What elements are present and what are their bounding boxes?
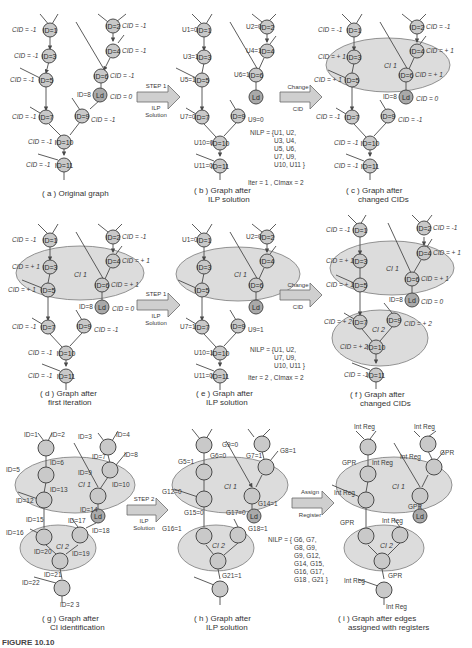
edge-id-label: ID=7	[92, 453, 106, 460]
panel-caption: ( d ) Graph after	[40, 389, 97, 398]
nilp-line: G18 , G21 }	[294, 576, 329, 584]
node-label: ID=1	[353, 227, 368, 234]
node-label: ID=9	[381, 113, 396, 120]
panel-d-first-iteration: CI 1 ID=1 ID=2 ID=3 ID=4 ID=5 ID=6 Ld ID…	[8, 224, 150, 407]
node-label: ID=9	[77, 323, 92, 330]
arrow-label: Change	[287, 282, 309, 288]
node-label: ID=10	[55, 139, 74, 146]
u-label: U10=0	[194, 139, 214, 146]
panel-caption: ILP solution	[206, 398, 248, 407]
node-label: ID=5	[345, 77, 360, 84]
node-label: ID=10	[57, 350, 76, 357]
register-label: Int Reg	[334, 489, 355, 497]
nilp-line: U7, U9,	[274, 354, 296, 361]
node-label: ID=7	[345, 114, 360, 121]
node-label: ID=4	[106, 258, 121, 265]
cid-label: CID = -1	[326, 226, 351, 233]
u-label: U4=1	[246, 47, 262, 54]
edge-id-label: ID=16	[6, 529, 24, 536]
node-label: ID=2	[417, 225, 432, 232]
edge-id-label: ID=14	[80, 506, 98, 513]
node-label: ID=6	[95, 282, 110, 289]
panel-caption: ( b ) Graph after	[194, 186, 251, 195]
g-label: G7=1	[246, 452, 262, 459]
edge-id-label: ID=15	[26, 516, 44, 523]
arrow-step1-ilp: STEP 1 ILP Solution	[137, 83, 180, 118]
cid-label: CID = + 1	[318, 53, 346, 60]
cid-label: CID = + 1	[8, 286, 36, 293]
node-label: ID=4	[417, 250, 432, 257]
panel-g-ci-identification: CI 1 CI 2 Ld ID=1 ID=2	[6, 431, 138, 632]
u-label: U1=0	[182, 236, 198, 243]
register-label: Int Reg	[382, 517, 403, 525]
arrow-label: ILP	[151, 313, 160, 319]
node-label: ID=10	[367, 344, 386, 351]
nilp-label: NILP = { G6, G7,	[268, 536, 317, 544]
node-label: ID=1	[43, 237, 58, 244]
node-label: ID=11	[55, 162, 73, 169]
register-label: GPR	[408, 503, 422, 510]
g-label: G17=0	[226, 509, 246, 516]
cid-label: CID = + 2	[340, 343, 368, 350]
arrow-label: Solution	[145, 112, 167, 118]
ld-node-label: Ld	[94, 513, 102, 520]
cid-label: CID = -1	[12, 113, 37, 120]
panel-caption: ( c ) Graph after	[346, 186, 403, 195]
cid-label: CID = -1	[28, 372, 53, 379]
panel-caption: ( h ) Graph after	[194, 614, 251, 623]
register-label: Int Reg	[414, 423, 435, 431]
node-label: ID=7	[39, 114, 54, 121]
node-label: ID=2	[410, 24, 425, 31]
cid-label: CID = -1	[318, 26, 343, 33]
edge-id-label: ID=19	[72, 550, 90, 557]
cid-label: CID = + 1	[314, 76, 342, 83]
register-label: GPR	[342, 459, 356, 466]
node-label: ID=6	[249, 282, 264, 289]
node-label: ID=11	[361, 163, 379, 170]
edge-id-label: ID=18	[92, 527, 110, 534]
ld-node-label: Ld	[96, 92, 104, 99]
edge-id-label: ID=4	[116, 431, 130, 438]
panel-caption: ( a ) Original graph	[42, 189, 109, 198]
ci-label: CI 1	[78, 481, 91, 488]
cid-label: CID = -1	[122, 233, 147, 240]
nilp-line: G9, G12,	[294, 552, 321, 559]
ld-node-label: Ld	[252, 94, 260, 101]
g-label: G14=1	[258, 500, 278, 507]
ld-id-label: ID=8	[77, 91, 91, 98]
u-label: U9=0	[248, 116, 264, 123]
node-label: ID=6	[405, 276, 420, 283]
cid-label: CID = + 1	[122, 257, 150, 264]
u-label: U2=0	[246, 233, 262, 240]
node-label: ID=3	[43, 264, 58, 271]
cid-label: CID = + 1	[421, 275, 449, 282]
register-label: GPR	[388, 572, 402, 579]
panel-caption: first iteration	[48, 398, 92, 407]
cid-label: CID = -1	[10, 76, 35, 83]
g-label: G9=0	[222, 441, 238, 448]
nilp-line: G14, G15,	[294, 560, 324, 567]
edge-id-label: ID=17	[68, 517, 86, 524]
nilp-line: G16, G17,	[294, 568, 324, 575]
register-label: Int Reg	[372, 459, 393, 467]
u-label: U7=1	[180, 323, 196, 330]
arrow-label: Solution	[133, 525, 155, 531]
node-label: ID=10	[211, 140, 230, 147]
cid-label: CID = + 1	[326, 281, 354, 288]
panel-a-original-graph: ID=1 ID=2 ID=3 ID=4 ID=5 ID=6 Ld ID=8 ID…	[10, 14, 147, 198]
g-label: G6=0	[210, 452, 226, 459]
ci-label: CI 1	[384, 62, 397, 69]
node-label: ID=9	[387, 317, 402, 324]
node-label: ID=7	[195, 324, 210, 331]
node-label: ID=9	[75, 113, 90, 120]
nilp-label: NILP = {	[250, 346, 275, 354]
arrow-assign-register: Assign Register	[292, 489, 334, 518]
node-label: ID=1	[197, 27, 212, 34]
node-label: ID=5	[195, 77, 210, 84]
node-label: ID=11	[57, 373, 75, 380]
edge-id-label: ID=8	[124, 451, 138, 458]
edge-id-label: ID=1	[24, 431, 38, 438]
edge-id-label: ID=20	[34, 548, 52, 555]
panel-i-register-assignment: CI 1 CI 2 Ld Int Reg Int Reg GPR	[332, 423, 454, 632]
ci-label: CI 1	[386, 265, 399, 272]
